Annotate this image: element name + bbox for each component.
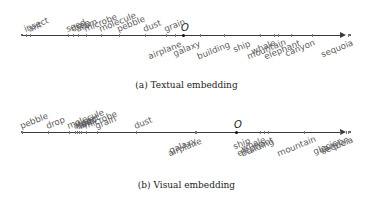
word-label: sequoia <box>320 136 354 157</box>
tick-mark <box>278 34 279 37</box>
tick-mark <box>348 131 349 134</box>
axis-arrow-icon <box>340 32 346 38</box>
tick-mark <box>348 34 349 37</box>
tick-mark <box>145 34 146 37</box>
tick-mark <box>68 34 69 37</box>
tick-mark <box>224 34 225 37</box>
tick-mark <box>175 34 176 37</box>
tick-mark <box>77 131 78 134</box>
caption-visual-embedding: (b) Visual embedding <box>0 180 373 190</box>
tick-mark <box>260 34 261 37</box>
tick-mark <box>291 34 292 37</box>
word-label: dust <box>133 116 154 131</box>
word-label: airplane <box>167 137 203 158</box>
tick-mark <box>195 131 196 134</box>
panel-textual-embedding: O insectantseeddropatommicrobemoleculepe… <box>0 0 373 98</box>
axis-end-dot <box>349 34 351 36</box>
tick-mark <box>136 131 137 134</box>
tick-mark <box>69 131 70 134</box>
tick-mark <box>48 131 49 134</box>
tick-mark <box>75 131 76 134</box>
tick-mark <box>81 131 82 134</box>
tick-mark <box>264 131 265 134</box>
origin-label: O <box>234 119 242 130</box>
tick-mark <box>304 131 305 134</box>
panel-visual-embedding: O pebbledropmoleculeseedinsectatomantmic… <box>0 100 373 198</box>
tick-mark <box>260 131 261 134</box>
tick-mark <box>97 131 98 134</box>
tick-mark <box>101 34 102 37</box>
tick-mark <box>268 131 269 134</box>
tick-mark <box>274 34 275 37</box>
word-label: ant <box>27 20 43 33</box>
word-label: building <box>196 40 231 61</box>
tick-mark <box>73 34 74 37</box>
tick-mark <box>119 34 120 37</box>
tick-mark <box>340 131 341 134</box>
tick-mark <box>86 131 87 134</box>
tick-mark <box>86 34 87 37</box>
tick-mark <box>200 34 201 37</box>
tick-mark <box>26 34 27 37</box>
axis-end-dot <box>349 131 351 133</box>
word-label: sequoia <box>320 39 354 60</box>
tick-mark <box>30 34 31 37</box>
embedding-axis <box>22 132 342 133</box>
caption-textual-embedding: (a) Textual embedding <box>0 80 373 90</box>
tick-mark <box>196 131 197 134</box>
origin-point <box>182 34 185 37</box>
origin-point <box>235 131 238 134</box>
tick-mark <box>22 131 23 134</box>
tick-mark <box>78 34 79 37</box>
tick-mark <box>166 34 167 37</box>
tick-mark <box>79 131 80 134</box>
